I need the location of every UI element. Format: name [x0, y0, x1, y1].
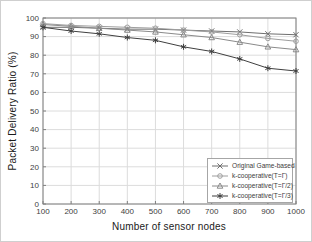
- x-tick-label: 300: [93, 207, 107, 216]
- y-tick-label: 10: [30, 181, 39, 190]
- x-tick-label: 700: [205, 207, 219, 216]
- x-tick-label: 1000: [287, 207, 305, 216]
- plot-area: 1002003004005006007008009001000010203040…: [1, 1, 312, 242]
- chart-figure: 1002003004005006007008009001000010203040…: [0, 0, 312, 242]
- y-axis-label: Packet Delivery Ratio (%): [7, 52, 18, 171]
- x-tick-label: 600: [177, 207, 191, 216]
- y-tick-label: 80: [30, 51, 39, 60]
- series-k-cooperative-t-3: [40, 24, 298, 74]
- triangle-marker-icon: [211, 182, 229, 190]
- y-tick-label: 60: [30, 88, 39, 97]
- legend-item: Original Game-based: [211, 161, 289, 170]
- y-tick-label: 70: [30, 70, 39, 79]
- legend-item: k-cooperative(T=Γ): [211, 171, 289, 180]
- x-tick-label: 500: [149, 207, 163, 216]
- y-tick-label: 50: [30, 107, 39, 116]
- y-tick-label: 40: [30, 125, 39, 134]
- x-tick-label: 400: [121, 207, 135, 216]
- x-tick-label: 200: [64, 207, 78, 216]
- y-tick-label: 20: [30, 163, 39, 172]
- legend-item: k-cooperative(T=Γ/2): [211, 181, 289, 190]
- legend-item: k-cooperative(T=Γ/3): [211, 191, 289, 200]
- x-axis-label: Number of sensor nodes: [112, 221, 226, 232]
- y-tick-label: 100: [26, 14, 40, 23]
- y-tick-label: 0: [35, 200, 40, 209]
- x-tick-label: 800: [233, 207, 247, 216]
- legend-label: k-cooperative(T=Γ): [232, 171, 287, 180]
- legend-label: Original Game-based: [232, 161, 295, 170]
- series-line: [43, 27, 296, 71]
- x-marker-icon: [211, 162, 229, 170]
- x-tick-label: 900: [261, 207, 275, 216]
- y-tick-label: 90: [30, 32, 39, 41]
- y-tick-label: 30: [30, 144, 39, 153]
- asterisk-marker-icon: [211, 192, 229, 200]
- circle-marker-icon: [211, 172, 229, 180]
- legend: Original Game-basedk-cooperative(T=Γ)k-c…: [207, 158, 293, 203]
- series-k-cooperative-t: [41, 21, 299, 43]
- legend-label: k-cooperative(T=Γ/3): [232, 191, 293, 200]
- legend-label: k-cooperative(T=Γ/2): [232, 181, 293, 190]
